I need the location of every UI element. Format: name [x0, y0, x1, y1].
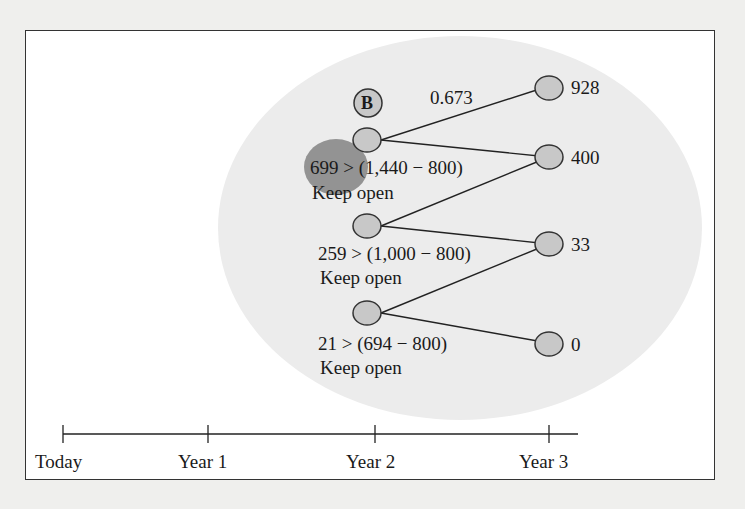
year2-node-3	[353, 301, 381, 325]
year3-value-4: 0	[571, 335, 581, 354]
year2-node-2-condition: 259 > (1,000 − 800)	[318, 244, 471, 263]
year3-node-2	[535, 145, 563, 169]
branch-probability: 0.673	[430, 88, 473, 107]
timeline-label-year1: Year 1	[178, 452, 227, 471]
year2-node-3-condition: 21 > (694 − 800)	[318, 334, 447, 353]
year2-node-2-decision: Keep open	[320, 268, 402, 287]
year2-node-1	[353, 128, 381, 152]
year2-node-1-decision: Keep open	[312, 183, 394, 202]
year3-node-4	[535, 332, 563, 356]
year3-node-3	[535, 232, 563, 256]
node-b-label: B	[361, 94, 373, 112]
year3-value-2: 400	[571, 148, 600, 167]
year2-node-1-condition: 699 > (1,440 − 800)	[310, 158, 463, 177]
year2-node-2	[353, 214, 381, 238]
timeline-label-today: Today	[35, 452, 82, 471]
year3-value-1: 928	[571, 78, 600, 97]
timeline-label-year2: Year 2	[346, 452, 395, 471]
year3-value-3: 33	[571, 235, 590, 254]
timeline-label-year3: Year 3	[519, 452, 568, 471]
timeline-axis	[63, 425, 578, 443]
year2-node-3-decision: Keep open	[320, 358, 402, 377]
year3-node-1	[535, 76, 563, 100]
